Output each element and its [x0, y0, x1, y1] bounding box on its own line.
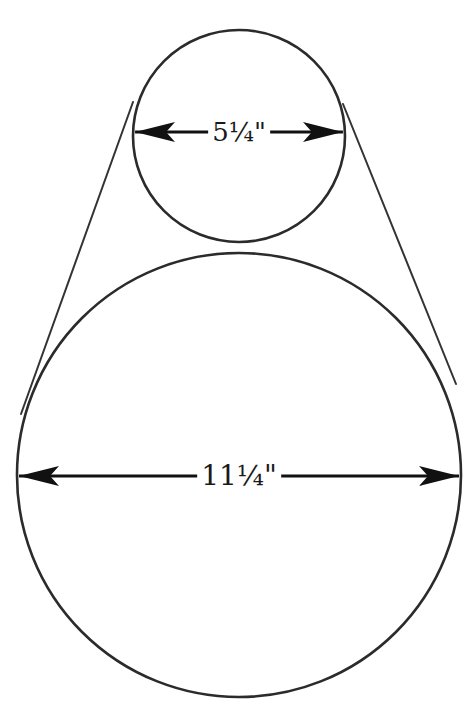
small-pulley-diameter-label: 5¼" — [208, 119, 270, 145]
large-pulley-diameter-label: 11¼" — [197, 462, 281, 490]
pulley-diagram — [0, 0, 474, 715]
belt-line-right — [343, 104, 456, 384]
belt-line-left — [21, 102, 133, 414]
